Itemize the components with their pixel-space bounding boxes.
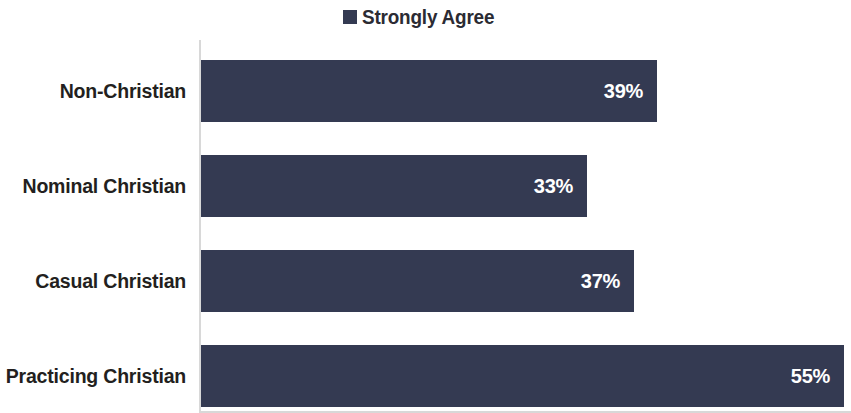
legend-item-strongly-agree: Strongly Agree bbox=[343, 6, 509, 27]
bar: 55% bbox=[201, 345, 844, 407]
bar-value-label: 55% bbox=[791, 365, 830, 388]
legend-label: Strongly Agree bbox=[362, 6, 494, 27]
bar: 39% bbox=[201, 60, 657, 122]
bar: 37% bbox=[201, 250, 634, 312]
legend-swatch-icon bbox=[343, 10, 357, 24]
category-label: Non-Christian bbox=[0, 60, 186, 122]
bar: 33% bbox=[201, 155, 587, 217]
chart-legend: Strongly Agree bbox=[0, 6, 851, 27]
category-label: Practicing Christian bbox=[0, 345, 186, 407]
bar-chart: Strongly Agree Non-Christian39%Nominal C… bbox=[0, 0, 851, 413]
bar-row: Practicing Christian55% bbox=[0, 345, 851, 413]
category-label: Casual Christian bbox=[0, 250, 186, 312]
plot-area: Non-Christian39%Nominal Christian33%Casu… bbox=[0, 40, 851, 413]
bar-value-label: 37% bbox=[581, 270, 620, 293]
bar-row: Non-Christian39% bbox=[0, 60, 851, 155]
bar-row: Casual Christian37% bbox=[0, 250, 851, 345]
bar-value-label: 39% bbox=[604, 80, 643, 103]
bar-value-label: 33% bbox=[534, 175, 573, 198]
category-label: Nominal Christian bbox=[0, 155, 186, 217]
bar-row: Nominal Christian33% bbox=[0, 155, 851, 250]
bar-rows: Non-Christian39%Nominal Christian33%Casu… bbox=[0, 40, 851, 413]
